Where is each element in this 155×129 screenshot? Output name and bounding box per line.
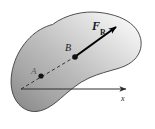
force-symbol: F bbox=[92, 19, 100, 33]
point-b-dot bbox=[72, 54, 78, 60]
force-subscript: R bbox=[100, 28, 106, 37]
force-label-fr: FR bbox=[92, 20, 106, 35]
point-a-label: A bbox=[31, 67, 37, 76]
point-a-dot bbox=[38, 73, 43, 78]
point-b-label: B bbox=[65, 43, 71, 53]
figure-container: FR B A x bbox=[0, 0, 155, 129]
figure-graphics bbox=[0, 0, 155, 129]
x-axis-label: x bbox=[121, 95, 125, 103]
